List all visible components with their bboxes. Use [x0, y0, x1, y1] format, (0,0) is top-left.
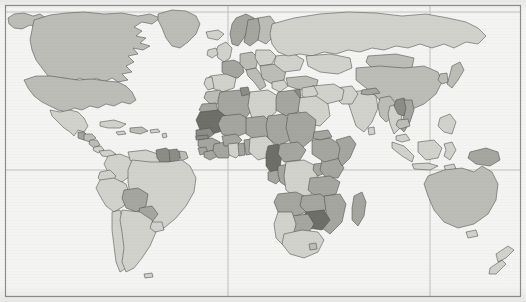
country-tunisia [240, 87, 250, 96]
island-jamaica [116, 131, 126, 135]
world-map-figure [0, 0, 526, 302]
island-falklands [144, 273, 153, 278]
world-map-canvas [0, 0, 526, 302]
island-puerto-rico [150, 129, 160, 133]
country-togo [238, 143, 245, 156]
country-lesotho [309, 243, 317, 250]
islands-lesser-antilles [162, 133, 167, 138]
island-sri-lanka [368, 127, 375, 135]
country-egypt [276, 90, 300, 116]
